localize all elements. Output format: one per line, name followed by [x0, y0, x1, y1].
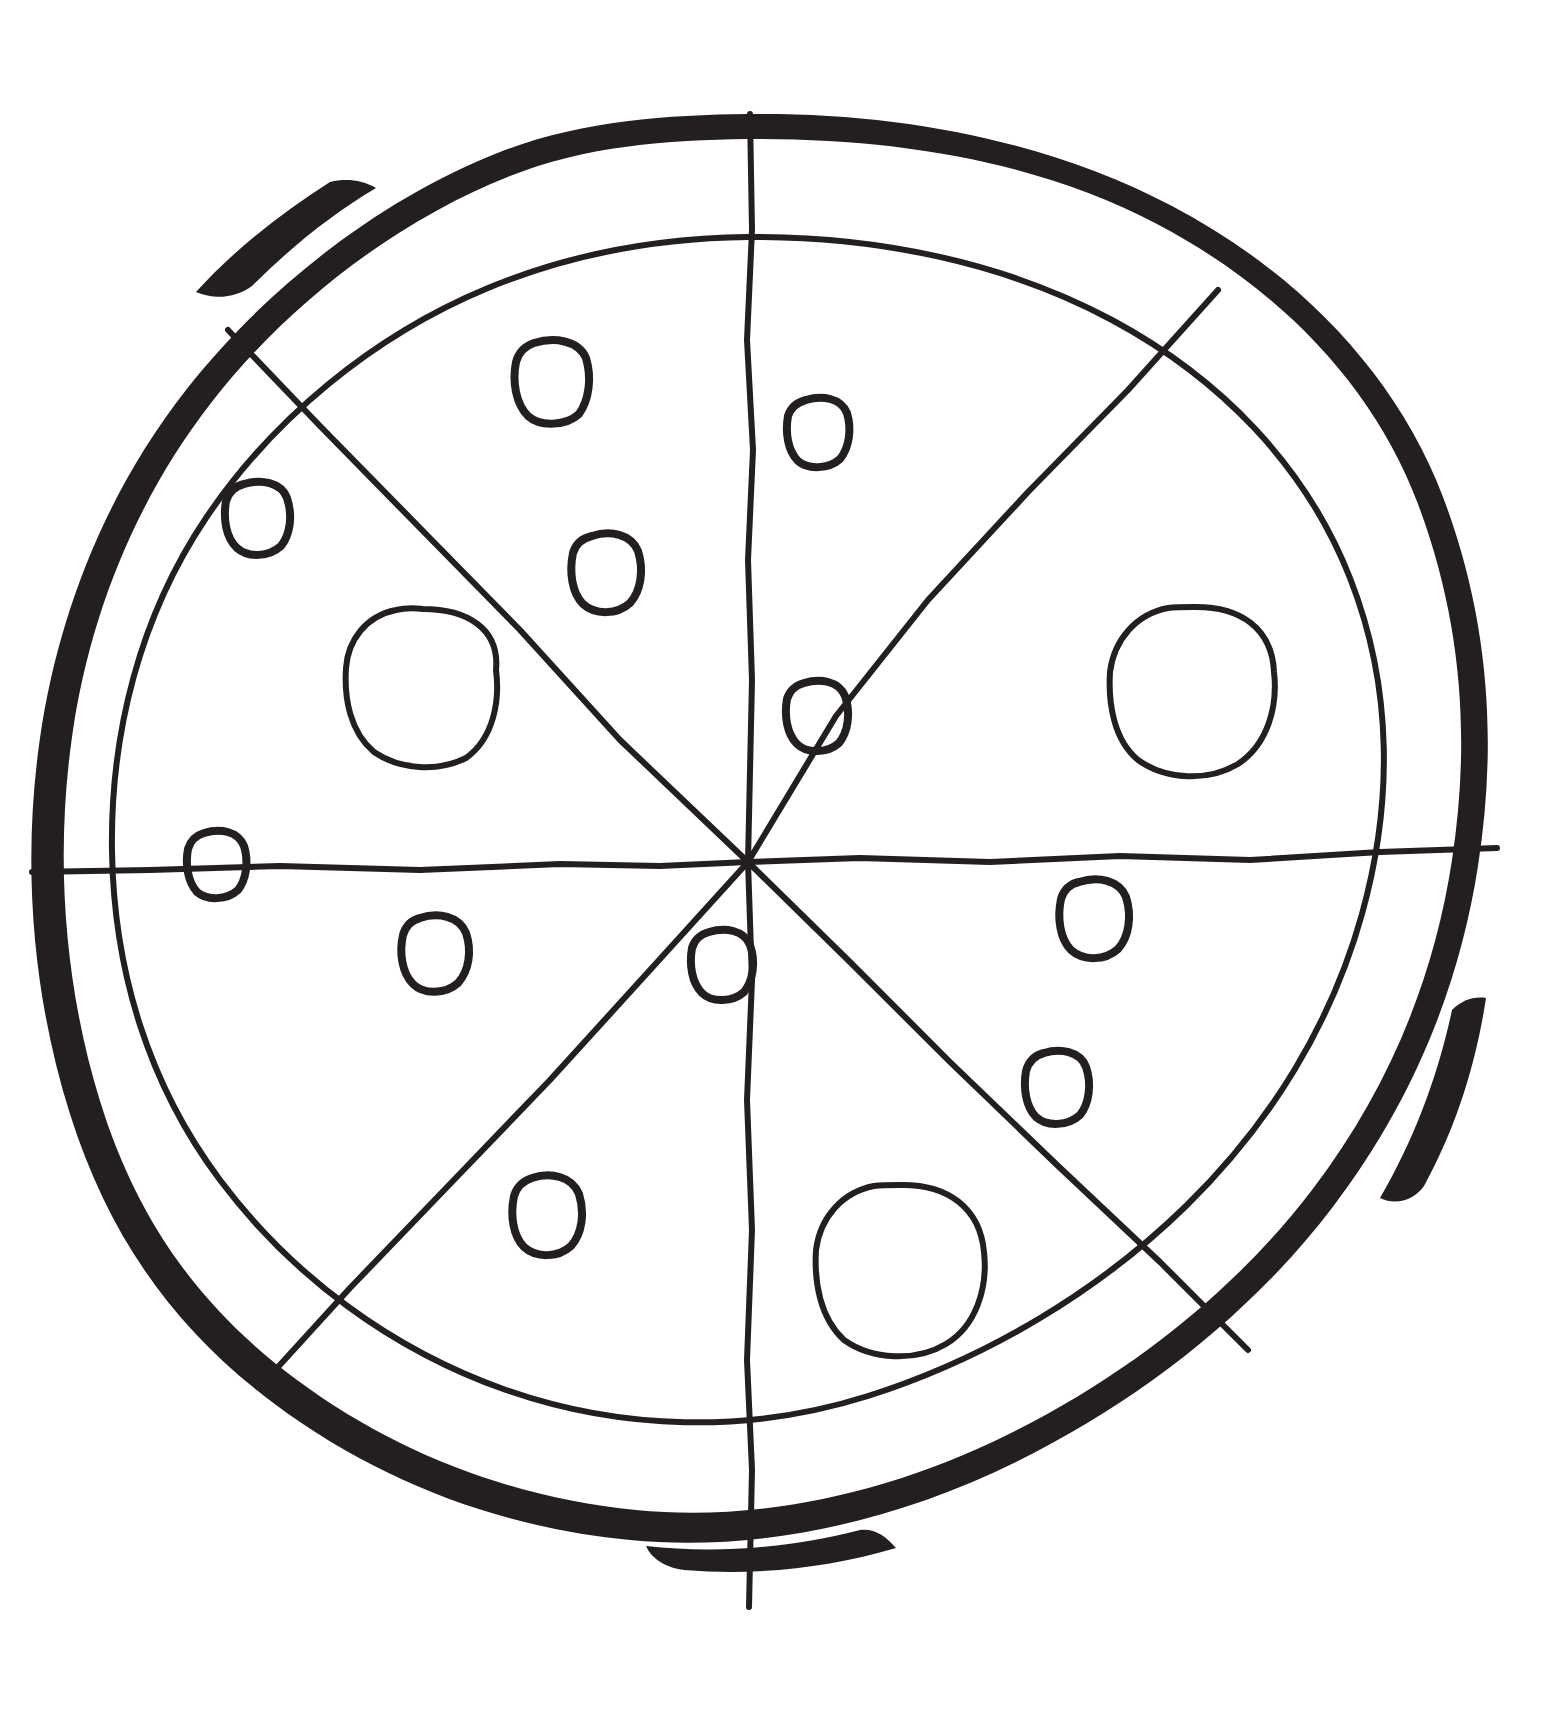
pizza-line-drawing [0, 0, 1551, 1736]
coloring-page-canvas: Pizza Coloring Page pizza-pie-whole-slic… [0, 0, 1551, 1736]
